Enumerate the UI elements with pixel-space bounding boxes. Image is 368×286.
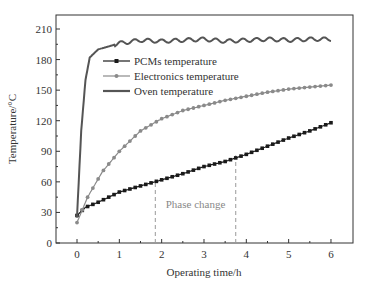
phase-change-annotation: Phase change (155, 155, 235, 243)
y-tick-label: 120 (36, 115, 53, 127)
legend: PCMs temperatureElectronics temperatureO… (103, 55, 239, 97)
x-tick-label: 5 (286, 248, 292, 260)
x-tick-label: 0 (74, 248, 80, 260)
phase-change-label: Phase change (166, 198, 226, 210)
y-tick-label: 150 (36, 84, 53, 96)
legend-label: Electronics temperature (134, 70, 239, 82)
legend-item: Oven temperature (103, 85, 213, 97)
y-axis-title: Temperature/°C (6, 94, 18, 164)
x-axis-title: Operating time/h (167, 266, 242, 278)
x-tick-label: 2 (159, 248, 165, 260)
x-tick-label: 4 (244, 248, 250, 260)
legend-label: Oven temperature (134, 85, 213, 97)
legend-item: PCMs temperature (103, 55, 217, 67)
legend-item: Electronics temperature (103, 70, 239, 82)
y-tick-label: 180 (36, 54, 53, 66)
line-chart: 0306090120150180210 0123456 Temperature/… (0, 0, 368, 286)
y-tick-label: 90 (41, 145, 53, 157)
x-tick-label: 3 (201, 248, 207, 260)
y-tick-label: 60 (41, 176, 53, 188)
x-tick-label: 6 (328, 248, 334, 260)
y-tick-label: 0 (47, 237, 53, 249)
legend-label: PCMs temperature (134, 55, 217, 67)
x-axis: 0123456 (74, 239, 334, 260)
y-tick-label: 30 (41, 206, 53, 218)
x-tick-label: 1 (117, 248, 123, 260)
y-tick-label: 210 (36, 23, 53, 35)
